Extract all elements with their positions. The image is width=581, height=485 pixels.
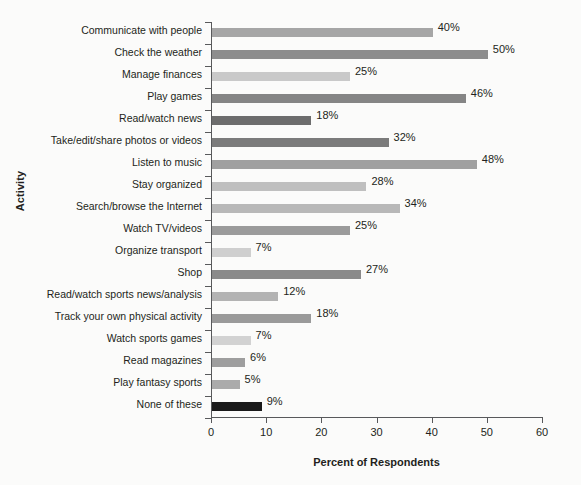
bar bbox=[212, 336, 251, 345]
y-axis-tick bbox=[205, 220, 211, 221]
bar-value-label: 28% bbox=[371, 175, 393, 187]
y-axis-tick bbox=[205, 66, 211, 67]
x-axis-tick bbox=[266, 417, 267, 423]
bar bbox=[212, 314, 311, 323]
y-axis-title: Activity bbox=[14, 151, 26, 231]
bar bbox=[212, 50, 488, 59]
x-axis-tick bbox=[211, 417, 212, 423]
y-axis-tick bbox=[205, 154, 211, 155]
bar-value-label: 18% bbox=[316, 307, 338, 319]
y-axis-tick bbox=[205, 88, 211, 89]
category-label: Play games bbox=[147, 90, 202, 102]
bar-value-label: 5% bbox=[245, 373, 261, 385]
bar bbox=[212, 160, 477, 169]
category-label: Play fantasy sports bbox=[113, 376, 202, 388]
bar bbox=[212, 402, 262, 411]
x-axis-tick bbox=[321, 417, 322, 423]
x-axis-tick-label: 60 bbox=[536, 426, 548, 438]
bar-row: Watch TV/videos25% bbox=[211, 220, 542, 242]
bar bbox=[212, 380, 240, 389]
y-axis-tick bbox=[205, 396, 211, 397]
y-axis-tick bbox=[205, 242, 211, 243]
bar-row: Read/watch sports news/analysis12% bbox=[211, 286, 542, 308]
bar-row: Read/watch news18% bbox=[211, 110, 542, 132]
x-axis-tick-label: 0 bbox=[208, 426, 214, 438]
bar-row: Read magazines6% bbox=[211, 352, 542, 374]
y-axis-tick bbox=[205, 264, 211, 265]
bar-value-label: 32% bbox=[394, 131, 416, 143]
bar-value-label: 6% bbox=[250, 351, 266, 363]
y-axis-tick bbox=[205, 374, 211, 375]
x-axis-tick-label: 20 bbox=[315, 426, 327, 438]
category-label: Watch TV/videos bbox=[123, 222, 202, 234]
bar bbox=[212, 248, 251, 257]
y-axis-tick bbox=[205, 286, 211, 287]
bar-value-label: 48% bbox=[482, 153, 504, 165]
bar bbox=[212, 138, 389, 147]
category-label: Read/watch news bbox=[119, 112, 202, 124]
x-axis-tick bbox=[377, 417, 378, 423]
bar-row: Listen to music48% bbox=[211, 154, 542, 176]
bar bbox=[212, 226, 350, 235]
y-axis-tick bbox=[205, 110, 211, 111]
bar-row: Watch sports games7% bbox=[211, 330, 542, 352]
bar-row: Organize transport7% bbox=[211, 242, 542, 264]
category-label: Organize transport bbox=[115, 244, 202, 256]
bar bbox=[212, 204, 400, 213]
category-label: Watch sports games bbox=[107, 332, 202, 344]
bar-value-label: 40% bbox=[438, 21, 460, 33]
bar-chart: Activity Communicate with people40%Check… bbox=[0, 0, 581, 485]
y-axis-tick bbox=[205, 308, 211, 309]
y-axis-tick bbox=[205, 22, 211, 23]
bar-value-label: 9% bbox=[267, 395, 283, 407]
bar-value-label: 12% bbox=[283, 285, 305, 297]
x-axis-tick bbox=[487, 417, 488, 423]
bar-row: Manage finances25% bbox=[211, 66, 542, 88]
bar-value-label: 18% bbox=[316, 109, 338, 121]
bar-value-label: 25% bbox=[355, 219, 377, 231]
bar bbox=[212, 292, 278, 301]
bar-value-label: 25% bbox=[355, 65, 377, 77]
x-axis-tick-label: 10 bbox=[260, 426, 272, 438]
bar bbox=[212, 72, 350, 81]
bar-row: Play games46% bbox=[211, 88, 542, 110]
x-axis-tick-label: 40 bbox=[426, 426, 438, 438]
plot-area: Communicate with people40%Check the weat… bbox=[211, 22, 542, 417]
category-label: Search/browse the Internet bbox=[76, 200, 202, 212]
x-axis-tick bbox=[542, 417, 543, 423]
category-label: Communicate with people bbox=[81, 24, 202, 36]
y-axis-tick bbox=[205, 132, 211, 133]
bar-value-label: 34% bbox=[405, 197, 427, 209]
bar-value-label: 7% bbox=[256, 329, 272, 341]
category-label: Check the weather bbox=[114, 46, 202, 58]
bar-value-label: 7% bbox=[256, 241, 272, 253]
bar-row: Stay organized28% bbox=[211, 176, 542, 198]
category-label: Listen to music bbox=[132, 156, 202, 168]
x-axis-tick bbox=[432, 417, 433, 423]
y-axis-tick bbox=[205, 44, 211, 45]
bar-row: Shop27% bbox=[211, 264, 542, 286]
bar bbox=[212, 116, 311, 125]
bar-row: Play fantasy sports5% bbox=[211, 374, 542, 396]
bar-row: None of these9% bbox=[211, 396, 542, 418]
bar-row: Communicate with people40% bbox=[211, 22, 542, 44]
category-label: Take/edit/share photos or videos bbox=[51, 134, 202, 146]
y-axis-tick bbox=[205, 176, 211, 177]
bar bbox=[212, 270, 361, 279]
category-label: Track your own physical activity bbox=[55, 310, 202, 322]
category-label: Shop bbox=[177, 266, 202, 278]
y-axis-tick bbox=[205, 198, 211, 199]
bar-row: Search/browse the Internet34% bbox=[211, 198, 542, 220]
bar-value-label: 27% bbox=[366, 263, 388, 275]
bar-value-label: 50% bbox=[493, 43, 515, 55]
x-axis-tick-label: 50 bbox=[481, 426, 493, 438]
category-label: Manage finances bbox=[122, 68, 202, 80]
y-axis-tick bbox=[205, 330, 211, 331]
bar-value-label: 46% bbox=[471, 87, 493, 99]
bar-row: Check the weather50% bbox=[211, 44, 542, 66]
bar bbox=[212, 182, 366, 191]
category-label: Read magazines bbox=[123, 354, 202, 366]
bar-row: Take/edit/share photos or videos32% bbox=[211, 132, 542, 154]
bar-row: Track your own physical activity18% bbox=[211, 308, 542, 330]
category-label: None of these bbox=[137, 398, 202, 410]
